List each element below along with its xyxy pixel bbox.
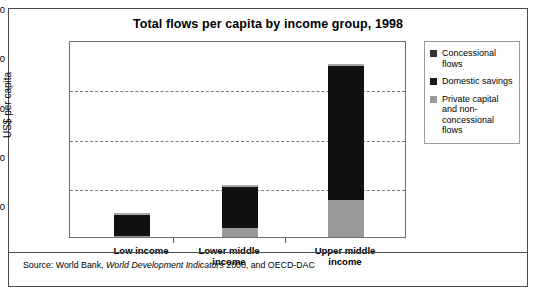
- bar-upper-middle-income[interactable]: [328, 64, 364, 237]
- bar-segment: [222, 187, 258, 228]
- x-category-lower-middle-income-line1: Lower middle: [169, 245, 289, 256]
- legend-swatch-private-capital: [430, 96, 437, 103]
- x-tick-1: [173, 238, 174, 243]
- legend-label-private-capital: Private capital and non-concessional flo…: [442, 94, 514, 136]
- legend-swatch-concessional-flows: [430, 50, 437, 57]
- y-tick-1600: 1,600: [0, 4, 5, 15]
- bar-segment: [114, 236, 150, 237]
- bar-segment: [222, 185, 258, 187]
- bar-segment: [114, 215, 150, 236]
- figure-panel: Total flows per capita by income group, …: [8, 8, 528, 287]
- bar-segment: [328, 64, 364, 66]
- source-italic-title: World Development Indicators: [106, 260, 224, 270]
- source-suffix: 2000, and OECD-DAC: [224, 260, 315, 270]
- y-tick-400: 400: [0, 151, 5, 162]
- legend-item-concessional-flows[interactable]: Concessional flows: [430, 48, 514, 69]
- source-divider: [9, 252, 527, 253]
- legend-item-domestic-savings[interactable]: Domestic savings: [430, 76, 514, 87]
- y-tick-1200: 1,200: [0, 53, 5, 64]
- x-tick-2: [285, 238, 286, 243]
- page-title: Total flows per capita by income group, …: [9, 17, 527, 31]
- y-tick-0: 0: [0, 201, 5, 212]
- legend-label-concessional-flows: Concessional flows: [442, 48, 514, 69]
- y-tick-800: 800: [0, 102, 5, 113]
- bar-low-income[interactable]: [114, 213, 150, 237]
- bar-lower-middle-income[interactable]: [222, 185, 258, 237]
- source-note: Source: World Bank, World Development In…: [23, 260, 315, 270]
- source-prefix: Source: World Bank,: [23, 260, 106, 270]
- x-category-upper-middle-income-line1: Upper middle: [285, 245, 405, 256]
- plot-area: [69, 41, 406, 238]
- bar-segment: [328, 66, 364, 200]
- legend-label-domestic-savings: Domestic savings: [442, 76, 513, 87]
- bar-segment: [222, 228, 258, 237]
- bar-segment: [328, 200, 364, 237]
- bar-segment: [114, 213, 150, 215]
- legend-swatch-domestic-savings: [430, 78, 437, 85]
- legend-item-private-capital[interactable]: Private capital and non-concessional flo…: [430, 94, 514, 136]
- legend: Concessional flows Domestic savings Priv…: [424, 41, 520, 144]
